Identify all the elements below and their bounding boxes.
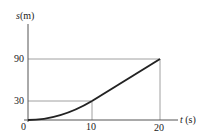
curve-parabolic-segment	[28, 101, 92, 120]
x-axis-unit: (s)	[183, 114, 196, 126]
y-axis-unit: (m)	[20, 10, 34, 22]
y-tick-90: 90	[14, 53, 24, 64]
y-tick-30: 30	[14, 95, 24, 106]
x-axis-label: t (s)	[180, 114, 196, 126]
x-tick-20: 20	[154, 122, 164, 133]
curve-linear-segment	[92, 59, 160, 101]
position-time-chart: s(m) 90 30 0 10 20 t (s)	[0, 0, 208, 140]
y-axis-label: s(m)	[16, 10, 34, 22]
x-tick-10: 10	[86, 121, 96, 132]
x-tick-0: 0	[21, 121, 26, 132]
